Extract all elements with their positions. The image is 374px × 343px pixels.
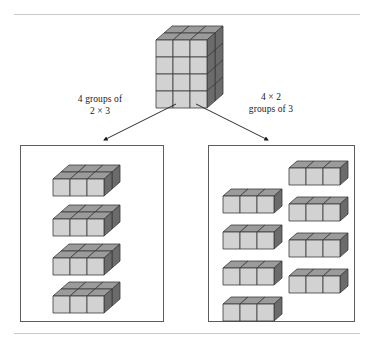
cube-front-face bbox=[289, 204, 306, 221]
cube-front-face bbox=[306, 204, 323, 221]
cube-front-face bbox=[223, 304, 240, 321]
right-row-6-svg bbox=[222, 224, 283, 250]
cube-front-face bbox=[70, 219, 87, 236]
cube-front-face bbox=[323, 240, 340, 257]
left-group-slab bbox=[52, 243, 121, 276]
cube-front-face bbox=[190, 91, 207, 108]
cube-front-face bbox=[190, 74, 207, 91]
cube-front-face bbox=[190, 40, 207, 57]
cube-front-face bbox=[70, 258, 87, 275]
cube-front-face bbox=[53, 296, 70, 313]
cube-front-face bbox=[257, 196, 274, 213]
left-group-slab bbox=[52, 281, 121, 314]
right-row-3-svg bbox=[288, 232, 349, 258]
left-slab-3-svg bbox=[52, 243, 121, 276]
cube-front-face bbox=[306, 276, 323, 293]
cube-front-face bbox=[87, 296, 104, 313]
cube-front-face bbox=[70, 179, 87, 196]
cube-front-face bbox=[70, 296, 87, 313]
cube-front-face bbox=[323, 204, 340, 221]
cube-front-face bbox=[257, 268, 274, 285]
cube-front-face bbox=[223, 196, 240, 213]
cube-front-face bbox=[156, 74, 173, 91]
right-row-7-svg bbox=[222, 260, 283, 286]
cube-front-face bbox=[156, 40, 173, 57]
cube-front-face bbox=[173, 57, 190, 74]
right-group-row bbox=[222, 224, 283, 250]
cube-front-face bbox=[240, 232, 257, 249]
right-group-row bbox=[222, 296, 283, 322]
left-group-slab bbox=[52, 164, 121, 197]
cube-front-face bbox=[53, 219, 70, 236]
cube-front-face bbox=[87, 179, 104, 196]
right-group-row bbox=[288, 232, 349, 258]
label-right-grouping: 4 × 2 groups of 3 bbox=[232, 92, 310, 115]
figure-container: 4 groups of 2 × 3 4 × 2 groups of 3 bbox=[0, 0, 374, 343]
cube-front-face bbox=[173, 40, 190, 57]
cube-front-face bbox=[173, 91, 190, 108]
right-group-row bbox=[288, 196, 349, 222]
right-row-1-svg bbox=[288, 160, 349, 186]
left-slab-1-svg bbox=[52, 164, 121, 197]
main-cube-svg bbox=[155, 25, 224, 109]
top-divider-rule bbox=[14, 14, 360, 15]
right-row-5-svg bbox=[222, 188, 283, 214]
left-slab-2-svg bbox=[52, 204, 121, 237]
label-left-grouping: 4 groups of 2 × 3 bbox=[62, 94, 138, 117]
cube-front-face bbox=[53, 258, 70, 275]
left-slab-4-svg bbox=[52, 281, 121, 314]
cube-front-face bbox=[306, 168, 323, 185]
right-row-4-svg bbox=[288, 268, 349, 294]
cube-front-face bbox=[323, 276, 340, 293]
cube-front-face bbox=[323, 168, 340, 185]
cube-front-face bbox=[289, 168, 306, 185]
cube-front-face bbox=[240, 304, 257, 321]
cube-front-face bbox=[257, 232, 274, 249]
cube-front-face bbox=[223, 232, 240, 249]
cube-front-face bbox=[289, 240, 306, 257]
cube-front-face bbox=[190, 57, 207, 74]
cube-front-face bbox=[240, 196, 257, 213]
bottom-divider-rule bbox=[14, 333, 360, 334]
cube-front-face bbox=[53, 179, 70, 196]
right-group-row bbox=[222, 260, 283, 286]
right-row-8-svg bbox=[222, 296, 283, 322]
right-group-row bbox=[288, 268, 349, 294]
right-group-row bbox=[222, 188, 283, 214]
cube-front-face bbox=[156, 57, 173, 74]
cube-front-face bbox=[289, 276, 306, 293]
cube-front-face bbox=[173, 74, 190, 91]
cube-front-face bbox=[306, 240, 323, 257]
right-group-row bbox=[288, 160, 349, 186]
right-row-2-svg bbox=[288, 196, 349, 222]
cube-front-face bbox=[87, 258, 104, 275]
cube-front-face bbox=[156, 91, 173, 108]
main-cube-block bbox=[155, 25, 224, 109]
cube-front-face bbox=[257, 304, 274, 321]
left-group-slab bbox=[52, 204, 121, 237]
cube-front-face bbox=[87, 219, 104, 236]
cube-front-face bbox=[240, 268, 257, 285]
cube-front-face bbox=[223, 268, 240, 285]
